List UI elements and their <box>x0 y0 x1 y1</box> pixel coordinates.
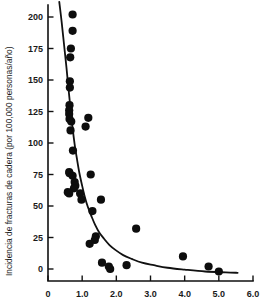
data-point <box>204 262 212 270</box>
y-tick-label: 175 <box>28 44 43 54</box>
y-tick-label: 150 <box>28 75 43 85</box>
data-point <box>86 240 94 248</box>
fit-curve <box>59 2 237 273</box>
y-tick-label: 25 <box>33 233 43 243</box>
data-point <box>84 114 92 122</box>
y-tick-label: 100 <box>28 138 43 148</box>
data-points-group <box>64 10 223 275</box>
x-tick-label: 1.0 <box>76 289 89 299</box>
x-tick-label: 4.0 <box>178 289 191 299</box>
data-point <box>69 146 77 154</box>
y-tick-label: 0 <box>38 264 43 274</box>
x-tick-label: 2.0 <box>110 289 123 299</box>
data-point <box>215 267 223 275</box>
x-tick-label: 0 <box>45 289 50 299</box>
scatter-plot: Incidencia de fracturas de cadera (por 1… <box>0 0 268 307</box>
x-tick-label: 5.0 <box>213 289 226 299</box>
y-tick-label: 125 <box>28 107 43 117</box>
data-point <box>87 170 95 178</box>
y-axis-title: Incidencia de fracturas de cadera (por 1… <box>4 46 14 276</box>
x-axis-tick-labels: 01.02.03.04.05.06.0 <box>45 289 259 299</box>
data-point <box>97 196 105 204</box>
data-point <box>88 207 96 215</box>
y-axis-title-group: Incidencia de fracturas de cadera (por 1… <box>4 46 14 276</box>
data-point <box>66 83 74 91</box>
data-point <box>81 123 89 131</box>
data-point <box>77 196 85 204</box>
data-point <box>132 225 140 233</box>
data-point <box>67 44 75 52</box>
y-tick-label: 50 <box>33 201 43 211</box>
data-point <box>122 261 130 269</box>
data-point <box>67 117 75 125</box>
data-point <box>106 265 114 273</box>
y-tick-label: 75 <box>33 170 43 180</box>
data-point <box>65 189 73 197</box>
x-tick-label: 3.0 <box>144 289 157 299</box>
y-tick-label: 200 <box>28 12 43 22</box>
axis-tick-marks <box>48 17 253 281</box>
data-point <box>66 126 74 134</box>
data-point <box>69 10 77 18</box>
data-point <box>69 27 77 35</box>
data-point <box>66 53 74 61</box>
data-point <box>179 252 187 260</box>
axis-frame <box>48 5 253 281</box>
y-axis-tick-labels: 0255075100125150175200 <box>28 12 43 274</box>
chart-figure: Incidencia de fracturas de cadera (por 1… <box>0 0 268 307</box>
x-tick-label: 6.0 <box>247 289 260 299</box>
